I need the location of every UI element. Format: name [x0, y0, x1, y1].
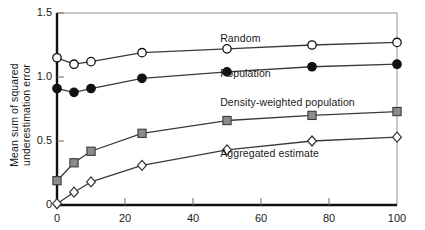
marker-filled-square[interactable] — [308, 111, 316, 119]
marker-open-diamond[interactable] — [393, 132, 402, 142]
marker-filled-circle[interactable] — [87, 84, 95, 92]
marker-filled-square[interactable] — [53, 177, 61, 185]
series-label-2: Density-weighted population — [220, 96, 355, 108]
marker-open-diamond[interactable] — [308, 136, 317, 146]
y-tick-label: 1.5 — [37, 6, 52, 18]
y-tick-label: 0 — [46, 198, 52, 210]
marker-open-diamond[interactable] — [53, 199, 62, 209]
marker-open-diamond[interactable] — [87, 177, 96, 187]
y-tick-label: 0.5 — [37, 134, 52, 146]
marker-open-circle[interactable] — [393, 38, 401, 46]
series-label-3: Aggregated estimate — [220, 147, 319, 159]
marker-filled-square[interactable] — [393, 107, 401, 115]
marker-open-circle[interactable] — [53, 54, 61, 62]
marker-open-diamond[interactable] — [138, 160, 147, 170]
x-tick-label: 80 — [299, 212, 359, 224]
x-tick-label: 60 — [231, 212, 291, 224]
marker-filled-square[interactable] — [87, 147, 95, 155]
y-tick-label: 1.0 — [37, 70, 52, 82]
chart-container: Mean sum of squared underestimation erro… — [0, 0, 425, 230]
marker-open-circle[interactable] — [138, 48, 146, 56]
marker-open-circle[interactable] — [70, 60, 78, 68]
marker-open-circle[interactable] — [87, 57, 95, 65]
marker-open-circle[interactable] — [308, 41, 316, 49]
marker-filled-square[interactable] — [70, 159, 78, 167]
plot-area — [0, 0, 425, 230]
marker-filled-square[interactable] — [223, 116, 231, 124]
marker-filled-circle[interactable] — [53, 84, 61, 92]
series-label-1: Population — [220, 67, 271, 79]
x-tick-label: 40 — [163, 212, 223, 224]
marker-filled-circle[interactable] — [70, 88, 78, 96]
marker-open-diamond[interactable] — [70, 187, 79, 197]
marker-filled-square[interactable] — [138, 129, 146, 137]
series-label-0: Random — [220, 32, 260, 44]
marker-open-circle[interactable] — [223, 45, 231, 53]
x-tick-label: 100 — [367, 212, 425, 224]
marker-filled-circle[interactable] — [308, 63, 316, 71]
x-tick-label: 20 — [95, 212, 155, 224]
marker-filled-circle[interactable] — [138, 74, 146, 82]
marker-filled-circle[interactable] — [393, 60, 401, 68]
x-tick-label: 0 — [27, 212, 87, 224]
